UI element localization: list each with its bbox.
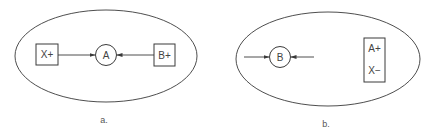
diagram-canvas: X+ A B+ a. B A+ X− b.: [0, 0, 430, 138]
node-a-label: A: [103, 50, 110, 61]
node-x-plus-label: X+: [41, 49, 54, 60]
panel-b-caption: b.: [322, 119, 330, 129]
node-ax-box: A+ X−: [364, 38, 385, 82]
node-ax-box-bottom-label: X−: [368, 65, 381, 76]
panel-a: X+ A B+ a.: [15, 10, 197, 125]
node-b: B: [270, 47, 291, 68]
node-x-plus: X+: [36, 44, 58, 65]
panel-b-ellipse: [236, 12, 420, 106]
node-ax-box-top-label: A+: [368, 43, 381, 54]
node-b-label: B: [277, 52, 284, 63]
panel-a-caption: a.: [100, 115, 108, 125]
node-a: A: [96, 45, 117, 66]
panel-b: B A+ X− b.: [236, 12, 420, 129]
node-b-plus-label: B+: [158, 50, 171, 61]
node-b-plus: B+: [154, 44, 175, 66]
